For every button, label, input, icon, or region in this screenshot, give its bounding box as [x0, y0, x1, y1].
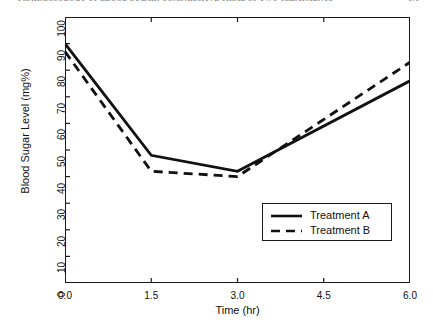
legend-swatch-dashed	[270, 226, 303, 236]
x-axis-tick-label: 0.0	[45, 290, 85, 301]
y-axis-tick-label: 40	[56, 175, 67, 201]
legend-label-treatment-b: Treatment B	[310, 225, 370, 236]
y-axis-title: Blood Sugar Level (mg%)	[19, 46, 31, 216]
x-axis-tick-label: 6.0	[390, 290, 430, 301]
x-axis-title: Time (hr)	[65, 304, 410, 316]
legend-item-treatment-a: Treatment A	[263, 208, 391, 223]
y-axis-tick-label: 60	[56, 122, 67, 148]
plot-canvas	[65, 17, 410, 283]
legend-label-treatment-a: Treatment A	[310, 210, 370, 221]
x-axis-tick-label: 1.5	[131, 290, 171, 301]
series-line-treatment-a	[65, 44, 410, 172]
x-axis-tick-label: 3.0	[218, 290, 258, 301]
line-chart-figure: 0102030405060708090100 0.01.53.04.56.0 B…	[0, 0, 433, 327]
x-axis-tick-marks	[65, 17, 410, 283]
y-axis-tick-label: 100	[56, 16, 67, 42]
y-axis-tick-label: 90	[56, 42, 67, 68]
y-axis-tick-label: 20	[56, 228, 67, 254]
y-axis-tick-label: 70	[56, 95, 67, 121]
y-axis-tick-label: 80	[56, 69, 67, 95]
series-line-treatment-b	[65, 52, 410, 177]
legend-swatch-solid	[270, 211, 303, 221]
data-series-lines	[65, 44, 410, 177]
y-axis-tick-label: 50	[56, 149, 67, 175]
x-axis-tick-label: 4.5	[304, 290, 344, 301]
chart-legend: Treatment A Treatment B	[262, 203, 392, 241]
y-axis-tick-label: 30	[56, 202, 67, 228]
legend-item-treatment-b: Treatment B	[263, 223, 391, 238]
y-axis-tick-label: 10	[56, 255, 67, 281]
